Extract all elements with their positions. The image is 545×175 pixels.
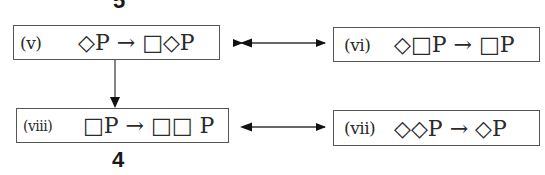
arrowhead-left-icon	[240, 123, 252, 132]
edges-layer	[0, 0, 545, 175]
arrowhead-down-icon	[110, 97, 120, 108]
arrowhead-left-icon	[240, 39, 252, 48]
